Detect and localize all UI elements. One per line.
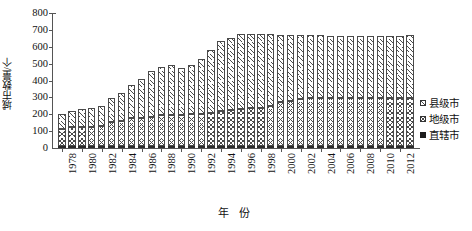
x-tickmark <box>142 149 143 152</box>
bar-segment-prefecture <box>307 98 314 146</box>
bar-segment-county <box>277 35 284 103</box>
bar-segment-municipality <box>178 146 185 148</box>
bar-segment-municipality <box>396 146 403 148</box>
bar-segment-county <box>257 34 264 108</box>
bar-segment-prefecture <box>227 110 234 145</box>
bar-segment-county <box>78 109 85 127</box>
bar-group <box>188 67 195 148</box>
bar-group <box>128 87 135 148</box>
bar-segment-prefecture <box>287 101 294 146</box>
bar-segment-municipality <box>237 146 244 148</box>
bar-segment-county <box>168 65 175 115</box>
x-tick-label: 2004 <box>326 153 337 174</box>
bar-segment-county <box>367 36 374 98</box>
bar-group <box>396 37 403 148</box>
y-tick-label: 400 <box>14 76 48 86</box>
bar-segment-municipality <box>108 146 115 148</box>
x-tick-label: 2012 <box>405 153 416 174</box>
bar-segment-county <box>68 111 75 128</box>
bar-group <box>257 35 264 148</box>
bar-segment-municipality <box>98 146 105 148</box>
bar-group <box>207 52 214 148</box>
bar-segment-prefecture <box>406 98 413 146</box>
bar-group <box>108 100 115 148</box>
bar-segment-county <box>337 36 344 98</box>
bar-segment-county <box>227 38 234 110</box>
bar-segment-prefecture <box>217 111 224 146</box>
y-tick-label: 200 <box>14 109 48 119</box>
municipality-swatch-icon <box>420 132 426 138</box>
x-tick-label: 1984 <box>127 153 138 174</box>
bar-segment-municipality <box>128 146 135 148</box>
bar-segment-municipality <box>337 146 344 148</box>
bar-segment-prefecture <box>88 127 95 146</box>
y-tick-label: 700 <box>14 25 48 35</box>
bar-group <box>98 108 105 149</box>
plot-area <box>52 13 420 148</box>
bar-segment-county <box>396 36 403 98</box>
bar-segment-prefecture <box>148 117 155 146</box>
bar-segment-municipality <box>58 146 65 148</box>
x-tick-label: 2000 <box>286 153 297 174</box>
x-tick-label: 1996 <box>246 153 257 174</box>
bar-segment-municipality <box>327 146 334 148</box>
bar-segment-municipality <box>188 146 195 148</box>
x-tick-label: 1990 <box>186 153 197 174</box>
bar-segment-municipality <box>277 146 284 148</box>
bar-group <box>68 113 75 148</box>
bar-group <box>78 110 85 148</box>
x-tickmark <box>360 149 361 152</box>
bar-group <box>217 43 224 148</box>
bar-segment-county <box>297 35 304 99</box>
x-tickmark <box>301 149 302 152</box>
bar-segment-county <box>148 71 155 117</box>
bar-segment-municipality <box>78 146 85 148</box>
bar-segment-county <box>357 36 364 98</box>
y-tick-label: 500 <box>14 59 48 69</box>
bar-group <box>138 80 145 148</box>
bar-segment-prefecture <box>118 121 125 146</box>
bar-segment-prefecture <box>68 127 75 145</box>
bar-segment-municipality <box>198 146 205 148</box>
bar-group <box>347 37 354 148</box>
bar-group <box>178 69 185 148</box>
bar-segment-county <box>128 85 135 118</box>
bar-group <box>377 37 384 148</box>
x-tick-label: 1998 <box>266 153 277 174</box>
bar-segment-prefecture <box>158 115 165 146</box>
legend-item: 直辖市 <box>420 127 472 143</box>
bar-segment-prefecture <box>277 102 284 146</box>
bar-segment-municipality <box>118 146 125 148</box>
x-tickmark <box>161 149 162 152</box>
bar-segment-prefecture <box>347 98 354 146</box>
bar-segment-municipality <box>207 146 214 148</box>
bar-segment-municipality <box>367 146 374 148</box>
bar-group <box>148 73 155 148</box>
bar-segment-prefecture <box>257 108 264 146</box>
bar-segment-municipality <box>68 146 75 148</box>
y-tick-label: 600 <box>14 42 48 52</box>
bar-segment-municipality <box>138 146 145 148</box>
bar-segment-prefecture <box>377 98 384 146</box>
bar-segment-prefecture <box>357 98 364 146</box>
y-tick-label: 0 <box>14 143 48 153</box>
bar-segment-prefecture <box>98 126 105 146</box>
bar-group <box>297 37 304 148</box>
x-tickmark <box>380 149 381 152</box>
x-tickmark <box>321 149 322 152</box>
x-tickmark <box>400 149 401 152</box>
legend-item: 地级市 <box>420 111 472 127</box>
bar-segment-prefecture <box>247 108 254 145</box>
bar-segment-county <box>247 34 254 109</box>
bar-group <box>168 67 175 149</box>
x-tickmark <box>122 149 123 152</box>
bar-group <box>317 36 324 148</box>
bar-group <box>287 36 294 148</box>
bar-segment-prefecture <box>178 115 185 146</box>
x-axis-title: 年 份 <box>0 204 472 220</box>
bar-segment-county <box>138 79 145 118</box>
bar-segment-prefecture <box>188 114 195 146</box>
x-axis-tick-labels: 1978198019821984198619881990199219941996… <box>52 149 420 195</box>
bar-segment-county <box>386 36 393 98</box>
bar-group <box>237 35 244 148</box>
